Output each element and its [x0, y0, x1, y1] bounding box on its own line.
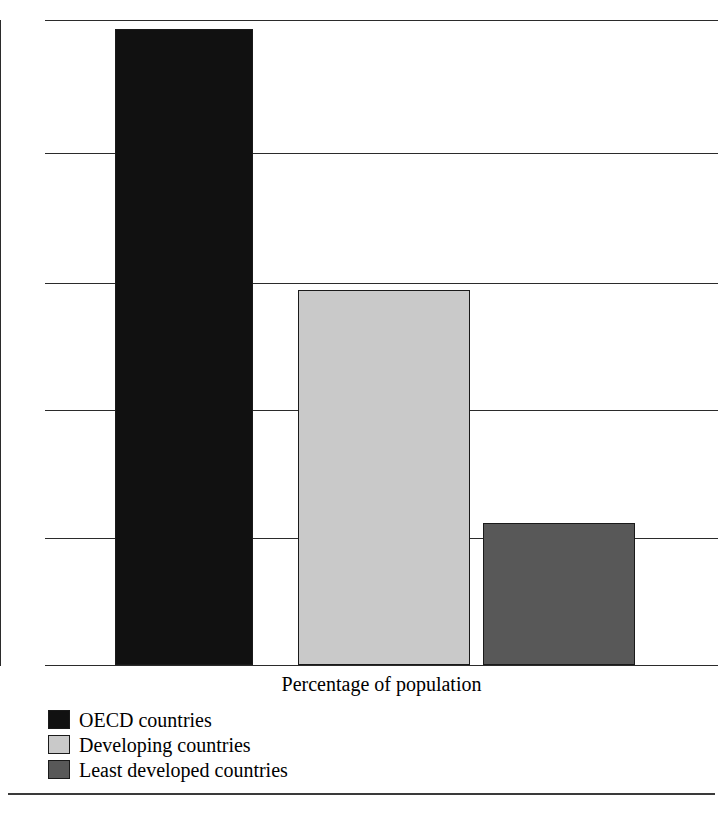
legend-swatch-icon: [48, 735, 70, 754]
legend-item-least-developed-countries: Least developed countries: [48, 757, 548, 782]
legend-item-oecd-countries: OECD countries: [48, 707, 548, 732]
gridline-50-baseline: [45, 665, 718, 666]
legend-item-label: Developing countries: [79, 735, 251, 755]
chart-legend: OECD countries Developing countries Leas…: [48, 707, 548, 782]
bar-chart-figure: 100 90 80 70 60 50 Percentage of populat…: [0, 0, 723, 813]
bar-least-developed-countries: [483, 523, 635, 665]
legend-swatch-icon: [48, 760, 70, 779]
x-axis-title: Percentage of population: [45, 672, 718, 696]
bar-developing-countries: [298, 290, 470, 665]
legend-item-developing-countries: Developing countries: [48, 732, 548, 757]
legend-swatch-icon: [48, 710, 70, 729]
legend-item-label: Least developed countries: [79, 760, 288, 780]
gridline-100: [45, 20, 718, 21]
bottom-divider: [8, 793, 715, 795]
bar-oecd-countries: [115, 29, 253, 665]
legend-item-label: OECD countries: [79, 710, 212, 730]
y-axis-line: [0, 20, 1, 666]
plot-area: [45, 20, 718, 665]
